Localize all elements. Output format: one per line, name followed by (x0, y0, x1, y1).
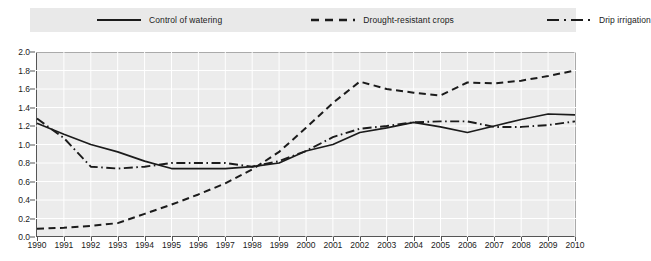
y-tick-label: 1.8 (0, 66, 30, 76)
x-tick-label: 1990 (28, 240, 47, 250)
x-tick-label: 2003 (377, 240, 396, 250)
x-tick-label: 1991 (54, 240, 73, 250)
x-axis: 1990199119921993199419951996199719981999… (36, 240, 576, 254)
x-tick-label: 2002 (350, 240, 369, 250)
plot-area (36, 52, 576, 237)
y-tick-label: 0.4 (0, 195, 30, 205)
y-tick-mark (30, 107, 35, 108)
x-tick-mark (252, 237, 253, 241)
y-tick-mark (30, 70, 35, 71)
x-tick-label: 1992 (81, 240, 100, 250)
legend-swatch-dashdot-icon (546, 15, 592, 25)
x-tick-label: 1996 (189, 240, 208, 250)
y-tick-label: 0.0 (0, 232, 30, 242)
legend-label-drip-irrigation: Drip irrigation (599, 15, 651, 25)
x-tick-mark (414, 237, 415, 241)
legend-label-control-of-watering: Control of watering (149, 15, 222, 25)
chart-legend: Control of watering Drought-resistant cr… (30, 8, 576, 32)
x-tick-mark (64, 237, 65, 241)
x-tick-label: 1997 (216, 240, 235, 250)
y-tick-label: 0.8 (0, 158, 30, 168)
y-tick-mark (30, 144, 35, 145)
x-tick-mark (441, 237, 442, 241)
x-tick-mark (279, 237, 280, 241)
y-tick-mark (30, 126, 35, 127)
legend-label-drought-resistant-crops: Drought-resistant crops (363, 15, 454, 25)
x-tick-mark (467, 237, 468, 241)
legend-item-drought-resistant-crops[interactable]: Drought-resistant crops (310, 15, 454, 25)
x-tick-label: 2005 (431, 240, 450, 250)
x-tick-mark (521, 237, 522, 241)
x-tick-label: 2007 (485, 240, 504, 250)
legend-swatch-solid-icon (96, 15, 142, 25)
y-tick-mark (30, 163, 35, 164)
legend-swatch-dashed-icon (310, 15, 356, 25)
x-tick-label: 2008 (512, 240, 531, 250)
x-tick-mark (360, 237, 361, 241)
y-tick-mark (30, 237, 35, 238)
gridlines (36, 52, 576, 237)
y-tick-mark (30, 181, 35, 182)
x-tick-mark (387, 237, 388, 241)
x-tick-mark (145, 237, 146, 241)
x-tick-label: 1995 (162, 240, 181, 250)
x-tick-label: 1998 (243, 240, 262, 250)
x-tick-mark (91, 237, 92, 241)
x-tick-mark (172, 237, 173, 241)
y-tick-mark (30, 218, 35, 219)
y-tick-mark (30, 200, 35, 201)
x-tick-mark (198, 237, 199, 241)
x-tick-mark (306, 237, 307, 241)
x-tick-label: 1999 (270, 240, 289, 250)
x-tick-mark (333, 237, 334, 241)
y-tick-mark (30, 89, 35, 90)
x-tick-label: 2001 (323, 240, 342, 250)
y-tick-label: 1.4 (0, 103, 30, 113)
legend-item-drip-irrigation[interactable]: Drip irrigation (546, 15, 651, 25)
x-tick-label: 2010 (566, 240, 585, 250)
x-tick-label: 2009 (539, 240, 558, 250)
y-tick-label: 0.2 (0, 214, 30, 224)
y-tick-label: 1.0 (0, 140, 30, 150)
x-tick-mark (575, 237, 576, 241)
y-axis: 0.00.20.40.60.81.01.21.41.61.82.0 (0, 52, 30, 237)
y-tick-label: 1.2 (0, 121, 30, 131)
y-tick-label: 0.6 (0, 177, 30, 187)
y-tick-label: 1.6 (0, 84, 30, 94)
x-tick-label: 1994 (135, 240, 154, 250)
x-tick-mark (494, 237, 495, 241)
y-tick-label: 2.0 (0, 47, 30, 57)
x-tick-label: 1993 (108, 240, 127, 250)
x-tick-label: 2004 (404, 240, 423, 250)
plot-series-layer (36, 52, 576, 237)
x-tick-label: 2000 (297, 240, 316, 250)
x-tick-mark (37, 237, 38, 241)
y-tick-mark (30, 52, 35, 53)
legend-item-control-of-watering[interactable]: Control of watering (96, 15, 222, 25)
x-tick-mark (118, 237, 119, 241)
x-tick-label: 2006 (458, 240, 477, 250)
x-tick-mark (548, 237, 549, 241)
x-tick-mark (225, 237, 226, 241)
